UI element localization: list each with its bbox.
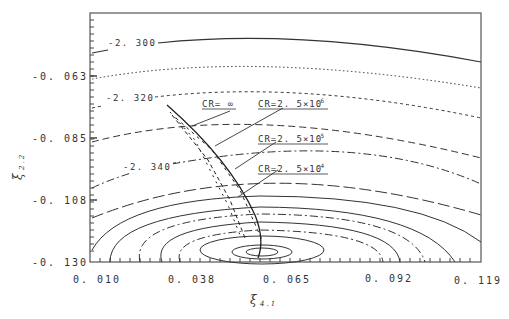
- svg-text:CR= ∞: CR= ∞: [202, 99, 234, 109]
- x-axis-ticks: [100, 258, 470, 262]
- svg-text:-4: -4: [316, 162, 325, 169]
- svg-text:2.2: 2.2: [18, 153, 26, 171]
- x-tick-label: 0. 119: [454, 275, 502, 286]
- y-tick-label: -0. 108: [32, 195, 88, 206]
- y-tick-label: -0. 063: [32, 71, 88, 82]
- x-tick-label: 0. 092: [365, 273, 413, 284]
- svg-text:-6: -6: [316, 97, 325, 104]
- x-tick-label: 0. 038: [168, 274, 216, 285]
- svg-text:ξ: ξ: [250, 293, 258, 307]
- svg-text:ξ: ξ: [11, 172, 25, 180]
- x-tick-label: 0. 065: [263, 274, 311, 285]
- svg-text:4.1: 4.1: [259, 300, 277, 308]
- contour-chart: -0. 063 -0. 085 -0. 108 -0. 130 0. 010 0…: [0, 0, 509, 319]
- x-tick-label: 0. 010: [73, 274, 121, 285]
- y-axis-title: ξ 2.2: [11, 153, 26, 180]
- label-cr-2.5e-5: CR=2. 5×10 -5: [258, 132, 328, 144]
- svg-text:CR=2. 5×10: CR=2. 5×10: [258, 134, 322, 144]
- contour-ellipses: [92, 196, 481, 264]
- label-cr-2.5e-4: CR=2. 5×10 -4: [258, 162, 328, 174]
- svg-text:-5: -5: [316, 132, 325, 139]
- y-tick-label: -0. 130: [32, 257, 88, 268]
- contour-lines: [92, 38, 481, 218]
- contour-label: -2. 320: [106, 93, 154, 103]
- y-tick-label: -0. 085: [32, 133, 88, 144]
- svg-text:CR=2. 5×10: CR=2. 5×10: [258, 99, 322, 109]
- contour-label: -2. 340: [123, 162, 171, 172]
- label-cr-inf: CR= ∞: [202, 99, 236, 109]
- x-axis-title: ξ 4.1: [250, 293, 277, 308]
- svg-text:CR=2. 5×10: CR=2. 5×10: [258, 164, 322, 174]
- contour-label: -2. 300: [108, 38, 156, 48]
- label-cr-2.5e-6: CR=2. 5×10 -6: [258, 97, 328, 109]
